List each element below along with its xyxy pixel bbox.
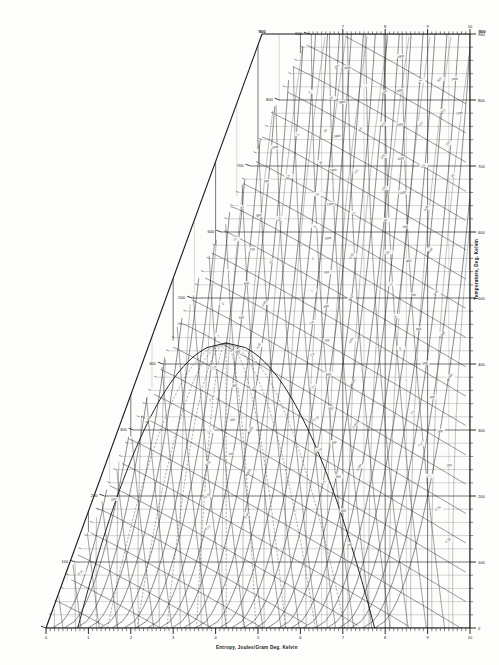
svg-text:1600: 1600 xyxy=(396,88,404,93)
svg-text:700: 700 xyxy=(237,163,244,168)
svg-text:200: 200 xyxy=(478,494,485,499)
svg-text:8: 8 xyxy=(384,24,387,29)
svg-text:3: 3 xyxy=(172,635,175,640)
svg-text:900: 900 xyxy=(402,225,408,230)
svg-text:400: 400 xyxy=(478,362,485,367)
svg-text:100: 100 xyxy=(228,452,234,457)
svg-text:10: 10 xyxy=(468,635,473,640)
svg-text:1: 1 xyxy=(87,635,90,640)
svg-text:700: 700 xyxy=(324,338,330,343)
svg-text:1400: 1400 xyxy=(396,122,404,127)
svg-text:300: 300 xyxy=(336,474,342,479)
svg-text:300: 300 xyxy=(232,383,238,388)
svg-text:600: 600 xyxy=(208,229,215,234)
svg-text:4: 4 xyxy=(214,635,217,640)
svg-text:900: 900 xyxy=(295,31,302,36)
svg-text:500: 500 xyxy=(422,361,428,366)
axis-tick-labels: 0123456789107891001002003004005006007008… xyxy=(45,24,486,640)
svg-text:900: 900 xyxy=(479,29,487,34)
svg-text:100: 100 xyxy=(111,497,117,502)
ts-diagram: 0.010.010.010.020.020.020.050.050.050.10… xyxy=(0,0,499,665)
svg-text:500: 500 xyxy=(478,296,485,301)
svg-text:600: 600 xyxy=(244,281,250,286)
x-axis-title: Entropy, Joules/Gram Deg. Kelvin xyxy=(216,645,298,650)
svg-text:500: 500 xyxy=(178,295,185,300)
svg-text:900: 900 xyxy=(264,179,270,184)
svg-text:7: 7 xyxy=(342,635,345,640)
svg-text:1800: 1800 xyxy=(338,100,346,105)
svg-text:1400: 1400 xyxy=(451,77,459,82)
svg-text:9: 9 xyxy=(426,24,429,29)
svg-text:800: 800 xyxy=(256,213,262,218)
svg-text:600: 600 xyxy=(416,327,422,332)
svg-text:300: 300 xyxy=(120,427,127,432)
svg-text:800: 800 xyxy=(324,304,330,309)
svg-text:100: 100 xyxy=(62,559,69,564)
svg-text:100: 100 xyxy=(478,560,485,565)
svg-text:200: 200 xyxy=(91,493,98,498)
svg-text:900: 900 xyxy=(324,270,330,275)
svg-text:300: 300 xyxy=(438,429,444,434)
svg-text:400: 400 xyxy=(331,440,337,445)
svg-text:10: 10 xyxy=(468,24,473,29)
svg-text:1000: 1000 xyxy=(380,89,388,97)
svg-text:9: 9 xyxy=(426,635,429,640)
svg-text:8: 8 xyxy=(384,635,387,640)
svg-text:1200: 1200 xyxy=(326,202,334,207)
svg-text:0: 0 xyxy=(45,635,48,640)
svg-text:700: 700 xyxy=(478,164,485,169)
svg-text:200: 200 xyxy=(447,463,453,468)
svg-text:1400: 1400 xyxy=(330,168,338,173)
svg-text:1600: 1600 xyxy=(333,134,341,139)
svg-text:1000: 1000 xyxy=(271,145,279,150)
svg-text:100: 100 xyxy=(347,543,353,548)
svg-text:0: 0 xyxy=(478,626,481,631)
svg-text:2000: 2000 xyxy=(344,66,352,71)
svg-text:600: 600 xyxy=(326,372,332,377)
svg-text:200: 200 xyxy=(341,509,347,514)
svg-text:700: 700 xyxy=(411,293,417,298)
svg-text:900: 900 xyxy=(259,29,267,34)
svg-text:800: 800 xyxy=(266,97,273,102)
svg-text:500: 500 xyxy=(328,406,334,411)
svg-text:2: 2 xyxy=(130,635,133,640)
svg-text:500: 500 xyxy=(239,315,245,320)
svg-text:400: 400 xyxy=(235,349,241,354)
chart-root: 0.010.010.010.020.020.020.050.050.050.10… xyxy=(0,0,499,665)
svg-text:800: 800 xyxy=(406,259,412,264)
svg-text:400: 400 xyxy=(149,361,156,366)
svg-text:700: 700 xyxy=(249,247,255,252)
svg-text:1000: 1000 xyxy=(399,190,407,195)
svg-text:6: 6 xyxy=(299,635,302,640)
svg-text:1200: 1200 xyxy=(456,111,464,116)
svg-text:7: 7 xyxy=(342,24,345,29)
svg-text:200: 200 xyxy=(230,418,236,423)
svg-text:1000: 1000 xyxy=(324,236,332,241)
svg-text:1800: 1800 xyxy=(397,54,405,59)
svg-text:5: 5 xyxy=(257,635,260,640)
svg-text:800: 800 xyxy=(478,98,485,103)
svg-text:300: 300 xyxy=(478,428,485,433)
svg-text:1200: 1200 xyxy=(397,156,405,161)
svg-text:600: 600 xyxy=(478,230,485,235)
svg-text:400: 400 xyxy=(429,395,435,400)
y-axis-title: Temperature, Deg. Kelvin xyxy=(474,239,479,300)
